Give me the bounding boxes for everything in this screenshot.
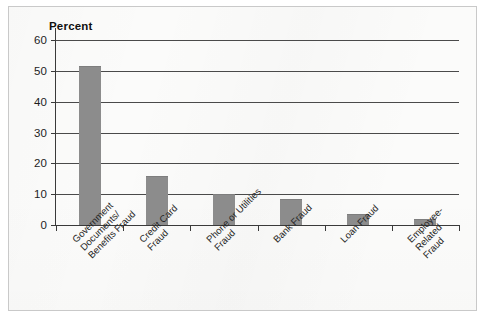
x-tick-mark-5 — [392, 225, 393, 231]
y-tick-label-50: 50 — [34, 65, 47, 77]
bar — [79, 66, 101, 225]
y-axis-line — [55, 28, 56, 226]
x-tick-mark-2 — [190, 225, 191, 231]
y-tick-mark-20 — [51, 163, 56, 164]
gridline-60 — [56, 40, 459, 41]
y-tick-label-10: 10 — [34, 188, 47, 200]
y-tick-label-40: 40 — [34, 96, 47, 108]
x-tick-mark-4 — [325, 225, 326, 231]
y-tick-mark-10 — [51, 194, 56, 195]
x-tick-mark-3 — [258, 225, 259, 231]
y-tick-label-30: 30 — [34, 127, 47, 139]
gridline-30 — [56, 133, 459, 134]
y-tick-mark-50 — [51, 71, 56, 72]
gridline-50 — [56, 71, 459, 72]
x-tick-mark-0 — [56, 225, 57, 231]
gridline-20 — [56, 163, 459, 164]
y-tick-label-20: 20 — [34, 157, 47, 169]
y-tick-mark-40 — [51, 102, 56, 103]
y-tick-mark-30 — [51, 133, 56, 134]
y-tick-label-60: 60 — [34, 34, 47, 46]
chart-figure: Percent 0102030405060 GovernmentDocument… — [8, 6, 477, 311]
y-tick-mark-60 — [51, 40, 56, 41]
y-tick-label-0: 0 — [41, 219, 48, 231]
gridline-40 — [56, 102, 459, 103]
